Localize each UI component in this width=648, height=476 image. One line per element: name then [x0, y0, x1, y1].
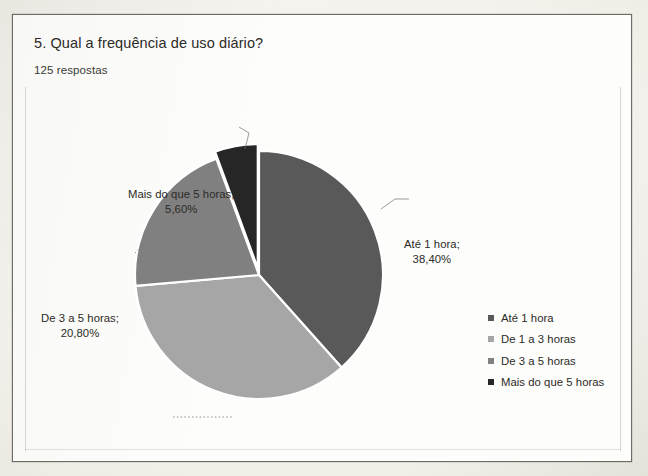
legend-item-label: Mais do que 5 horas	[501, 376, 604, 388]
legend-swatch-icon	[488, 336, 494, 342]
legend-swatch-icon	[488, 379, 494, 385]
data-label-value: 20,80%	[41, 326, 119, 341]
legend-swatch-icon	[488, 358, 494, 364]
chart-legend: Até 1 horaDe 1 a 3 horasDe 3 a 5 horasMa…	[488, 307, 648, 393]
legend-item[interactable]: Mais do que 5 horas	[488, 372, 648, 394]
legend-item-label: De 1 a 3 horas	[501, 333, 576, 345]
page-title: 5. Qual a frequência de uso diário?	[34, 35, 263, 51]
legend-item[interactable]: Até 1 hora	[488, 307, 648, 329]
data-label-name: Mais do que 5 horas;	[128, 188, 235, 200]
leader-line-ate-1-hora	[381, 199, 409, 209]
legend-item[interactable]: De 3 a 5 horas	[488, 350, 648, 372]
data-label-name: Até 1 hora;	[404, 238, 460, 250]
data-label-ate-1-hora: Até 1 hora; 38,40%	[404, 237, 460, 266]
chart-plot-area: Até 1 hora; 38,40% De 1 a 3 horas; 35,20…	[23, 87, 623, 451]
response-count: 125 respostas	[34, 64, 108, 76]
pie-slices	[135, 144, 383, 399]
data-label-value: 5,60%	[128, 202, 235, 217]
data-label-mais-do-que-5-horas: Mais do que 5 horas; 5,60%	[128, 187, 235, 216]
data-label-de-3-a-5-horas: De 3 a 5 horas; 20,80%	[41, 311, 119, 340]
legend-item-label: De 3 a 5 horas	[501, 355, 576, 367]
scanned-page: 5. Qual a frequência de uso diário? 125 …	[0, 0, 648, 476]
pie-chart	[23, 87, 623, 451]
legend-item-label: Até 1 hora	[501, 312, 554, 324]
question-card: 5. Qual a frequência de uso diário? 125 …	[12, 14, 632, 462]
data-label-value: 38,40%	[404, 252, 460, 267]
legend-item[interactable]: De 1 a 3 horas	[488, 329, 648, 351]
legend-swatch-icon	[488, 315, 494, 321]
data-label-name: De 3 a 5 horas;	[41, 312, 119, 324]
